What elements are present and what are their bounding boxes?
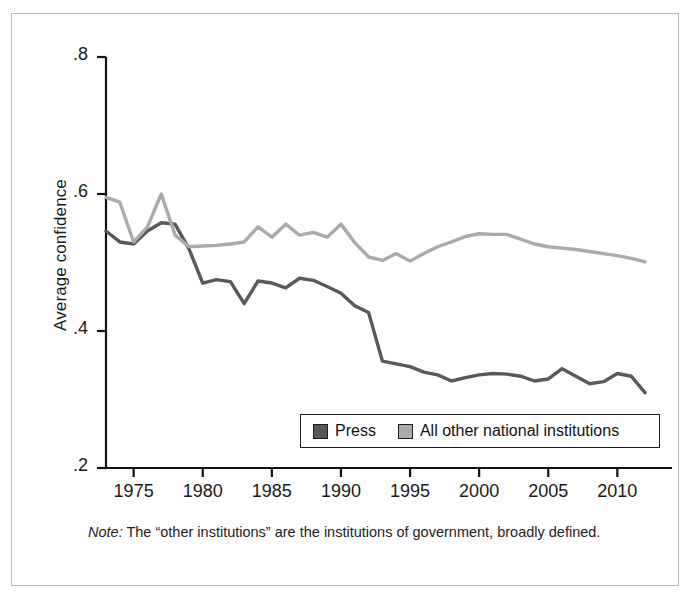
chart-series: [106, 194, 645, 393]
line-chart-svg: [0, 0, 695, 600]
x-tick-label: 2000: [449, 481, 509, 502]
x-tick-label: 2005: [518, 481, 578, 502]
y-tick-label: .2: [48, 455, 88, 476]
y-tick-label: .6: [48, 181, 88, 202]
figure-note: Note: The “other institutions” are the i…: [88, 522, 648, 543]
y-tick-label: .4: [48, 318, 88, 339]
x-tick-label: 1975: [104, 481, 164, 502]
x-tick-label: 1990: [311, 481, 371, 502]
legend-entry-all-other-national-institutions[interactable]: All other national institutions: [398, 422, 619, 440]
chart-legend: Press All other national institutions: [300, 414, 660, 448]
chart-plot-area: Average confidence .2.4.6.8 197519801985…: [0, 0, 695, 600]
series-line-all-other-national-institutions: [106, 194, 645, 262]
y-tick-label: .8: [48, 44, 88, 65]
x-tick-label: 2010: [587, 481, 647, 502]
legend-swatch-press: [313, 424, 328, 439]
legend-swatch-all-other-national-institutions: [398, 424, 413, 439]
x-tick-label: 1985: [242, 481, 302, 502]
x-tick-label: 1980: [173, 481, 233, 502]
note-prefix: Note:: [88, 524, 123, 540]
note-body: The “other institutions” are the institu…: [123, 524, 601, 540]
legend-label-all-other-national-institutions: All other national institutions: [420, 422, 619, 440]
legend-entry-press[interactable]: Press: [313, 422, 376, 440]
x-tick-label: 1995: [380, 481, 440, 502]
legend-label-press: Press: [335, 422, 376, 440]
